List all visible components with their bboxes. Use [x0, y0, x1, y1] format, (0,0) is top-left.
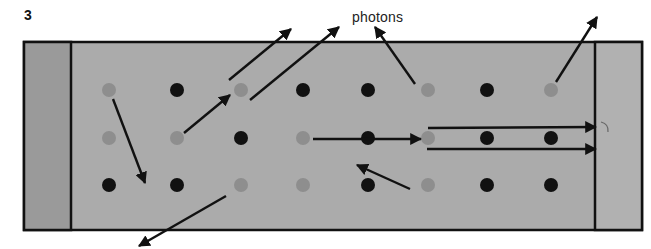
ground-state-atom [480, 131, 494, 145]
ground-state-atom [102, 178, 116, 192]
laser-cavity-diagram [0, 0, 651, 249]
excited-atom [296, 178, 310, 192]
ground-state-atom [296, 83, 310, 97]
excited-atom [421, 131, 435, 145]
excited-atom [421, 178, 435, 192]
ground-state-atom [480, 178, 494, 192]
excited-atom [296, 131, 310, 145]
left-mirror [24, 42, 71, 230]
excited-atom [102, 83, 116, 97]
excited-atom [544, 83, 558, 97]
ground-state-atom [170, 178, 184, 192]
excited-atom [234, 83, 248, 97]
ground-state-atom [480, 83, 494, 97]
ground-state-atom [170, 83, 184, 97]
excited-atom [234, 178, 248, 192]
excited-atom [421, 83, 435, 97]
ground-state-atom [234, 131, 248, 145]
excited-atom [102, 131, 116, 145]
right-mirror [595, 42, 642, 230]
ground-state-atom [361, 178, 375, 192]
photon-beam-upper-arrow [428, 127, 596, 128]
ground-state-atom [544, 131, 558, 145]
ground-state-atom [361, 83, 375, 97]
excited-atom [170, 131, 184, 145]
ground-state-atom [544, 178, 558, 192]
